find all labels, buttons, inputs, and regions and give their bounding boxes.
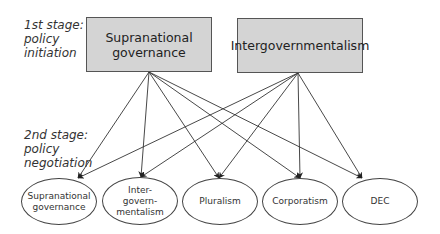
arrow-supra-to-plural <box>149 72 219 178</box>
target-corporatism: Corporatism <box>262 178 338 225</box>
target-intergovernmentalism: Inter- govern- mentalism <box>102 177 178 225</box>
target-dec: DEC <box>342 178 418 225</box>
arrow-inter-to-inter <box>141 73 298 177</box>
stage-1-label: 1st stage: policy initiation <box>24 18 84 60</box>
stage-2-label: 2nd stage: policy negotiation <box>24 128 92 170</box>
source-intergovernmentalism: Intergovernmentalism <box>237 18 363 73</box>
arrow-inter-to-supra <box>78 73 298 178</box>
target-pluralism: Pluralism <box>182 178 258 225</box>
arrow-supra-to-corp <box>149 72 300 178</box>
target-supranational-governance: Supranational governance <box>21 178 97 225</box>
arrow-inter-to-corp <box>298 73 300 178</box>
arrow-supra-to-inter <box>141 72 149 177</box>
arrow-inter-to-plural <box>219 73 298 178</box>
source-supranational-governance: Supranational governance <box>86 17 212 72</box>
